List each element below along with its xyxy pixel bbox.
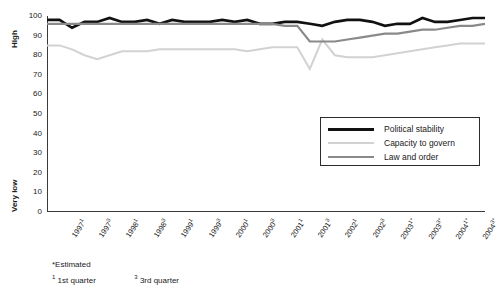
- chart-legend: Political stability Capacity to govern L…: [320, 117, 480, 166]
- x-axis-tick: 19983: [150, 217, 170, 239]
- legend-label-law-and-order: Law and order: [384, 152, 438, 162]
- legend-swatch-capacity-to-govern: [328, 142, 374, 144]
- legend-item-capacity-to-govern: Capacity to govern: [321, 136, 479, 150]
- x-axis-tick: 19981: [123, 217, 143, 239]
- footnote-q3-superscript: 3: [134, 274, 137, 280]
- x-axis-tick: 20031*: [398, 217, 419, 241]
- x-axis-tick: 19973: [95, 217, 115, 239]
- y-axis-tick: 0: [20, 207, 42, 216]
- legend-label-political-stability: Political stability: [384, 124, 444, 134]
- y-axis-tick: 70: [20, 70, 42, 79]
- x-axis-tick: 20003: [260, 217, 280, 239]
- footnote-estimated: *Estimated: [52, 258, 179, 271]
- footnote-q3-label: 3rd quarter: [140, 276, 179, 285]
- y-axis-tick: 80: [20, 50, 42, 59]
- y-axis-tick: 60: [20, 89, 42, 98]
- legend-swatch-law-and-order: [328, 156, 374, 158]
- legend-item-political-stability: Political stability: [321, 122, 479, 136]
- y-axis-bottom-label: Very low: [10, 180, 19, 212]
- y-axis-tick: 40: [20, 129, 42, 138]
- x-axis-tick: 20033*: [425, 217, 446, 241]
- y-axis-tick: 20: [20, 168, 42, 177]
- x-axis-tick: 19993: [205, 217, 225, 239]
- x-axis-tick: 19991: [178, 217, 198, 239]
- footnote-q1-superscript: 1: [52, 274, 55, 280]
- y-axis-tick: 10: [20, 187, 42, 196]
- x-axis-tick: 20043*: [480, 217, 500, 241]
- y-axis-tick: 90: [20, 31, 42, 40]
- x-axis-tick: 20011: [287, 217, 307, 239]
- x-axis-tick: 20021: [342, 217, 362, 239]
- legend-label-capacity-to-govern: Capacity to govern: [384, 138, 455, 148]
- plot-area: [47, 16, 485, 212]
- x-axis-tick: 20041*: [452, 217, 473, 241]
- footnote-q1-label: 1st quarter: [58, 276, 96, 285]
- series-line-capacity-to-govern: [47, 40, 485, 69]
- x-axis-tick: 20001: [232, 217, 252, 239]
- series-line-law-and-order: [47, 24, 485, 42]
- footnote-quarters: 1 1st quarter 3 3rd quarter: [52, 271, 179, 287]
- x-axis-tick: 19971: [68, 217, 88, 239]
- legend-swatch-political-stability: [328, 128, 374, 131]
- x-axis-tick: 20013: [314, 217, 334, 239]
- legend-item-law-and-order: Law and order: [321, 150, 479, 164]
- y-axis-tick: 100: [20, 11, 42, 20]
- x-axis-tick: 20023: [369, 217, 389, 239]
- y-axis-top-label: High: [10, 30, 19, 48]
- y-axis-tick: 50: [20, 109, 42, 118]
- line-chart-svg: [47, 16, 485, 212]
- y-axis-tick: 30: [20, 148, 42, 157]
- footnotes: *Estimated 1 1st quarter 3 3rd quarter: [52, 258, 179, 287]
